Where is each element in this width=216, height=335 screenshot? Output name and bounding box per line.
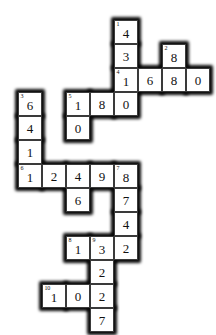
cell-digit: 4 — [67, 170, 89, 183]
grid-cell[interactable]: 1 — [18, 140, 42, 164]
grid-cell[interactable]: 2 — [90, 284, 114, 308]
grid-cell[interactable]: 7 — [90, 308, 114, 332]
cell-digit: 1 — [115, 75, 137, 88]
cell-digit: 1 — [67, 99, 89, 112]
cell-digit: 1 — [19, 146, 41, 159]
grid-cell[interactable]: 78 — [114, 164, 138, 188]
cell-digit: 0 — [67, 122, 89, 135]
cell-digit: 8 — [163, 74, 185, 87]
cell-digit: 4 — [115, 27, 137, 40]
cell-digit: 3 — [115, 50, 137, 63]
grid-cell[interactable]: 0 — [66, 284, 90, 308]
grid-cell[interactable]: 3 — [114, 44, 138, 68]
cell-digit: 2 — [91, 290, 113, 303]
grid-cell[interactable]: 0 — [186, 68, 210, 92]
grid-cell[interactable]: 93 — [90, 236, 114, 260]
grid-cell[interactable]: 101 — [42, 284, 66, 308]
grid-cell[interactable]: 14 — [114, 20, 138, 44]
cell-digit: 2 — [43, 170, 65, 183]
cell-digit: 2 — [91, 266, 113, 279]
grid-cell[interactable]: 7 — [114, 188, 138, 212]
grid-cell[interactable]: 9 — [90, 164, 114, 188]
grid-cell[interactable]: 8 — [90, 92, 114, 116]
cell-digit: 6 — [19, 99, 41, 112]
cell-digit: 9 — [91, 170, 113, 183]
grid-cell[interactable]: 28 — [162, 44, 186, 68]
cell-digit: 4 — [19, 122, 41, 135]
cell-digit: 0 — [187, 74, 209, 87]
grid-cell[interactable]: 81 — [66, 236, 90, 260]
cell-digit: 6 — [67, 194, 89, 207]
grid-cell[interactable]: 8 — [162, 68, 186, 92]
grid-cell[interactable]: 4 — [66, 164, 90, 188]
grid-cell[interactable]: 61 — [18, 164, 42, 188]
grid-cell[interactable]: 6 — [66, 188, 90, 212]
cell-digit: 8 — [163, 51, 185, 64]
grid-cell[interactable]: 2 — [42, 164, 66, 188]
grid-cell[interactable]: 41 — [114, 68, 138, 92]
cell-digit: 1 — [19, 171, 41, 184]
cell-digit: 7 — [115, 194, 137, 207]
cell-digit: 8 — [115, 171, 137, 184]
grid-cell[interactable]: 2 — [90, 260, 114, 284]
grid-cell[interactable]: 0 — [66, 116, 90, 140]
grid-cell[interactable]: 6 — [138, 68, 162, 92]
cell-digit: 0 — [115, 98, 137, 111]
grid-cell[interactable]: 2 — [114, 236, 138, 260]
cell-digit: 6 — [139, 74, 161, 87]
cell-digit: 1 — [67, 243, 89, 256]
cell-digit: 0 — [67, 290, 89, 303]
grid-cell[interactable]: 4 — [114, 212, 138, 236]
cell-digit: 8 — [91, 98, 113, 111]
cell-digit: 7 — [91, 314, 113, 327]
cell-digit: 2 — [115, 242, 137, 255]
cell-digit: 4 — [115, 218, 137, 231]
cell-digit: 1 — [43, 291, 65, 304]
grid-cell[interactable]: 51 — [66, 92, 90, 116]
grid-cell[interactable]: 4 — [18, 116, 42, 140]
grid-cell[interactable]: 0 — [114, 92, 138, 116]
cell-digit: 3 — [91, 243, 113, 256]
grid-cell[interactable]: 36 — [18, 92, 42, 116]
